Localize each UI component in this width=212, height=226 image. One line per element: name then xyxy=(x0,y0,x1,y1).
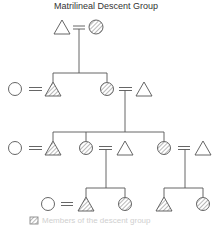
gen2-right-couple xyxy=(101,82,153,132)
male-triangle-icon xyxy=(136,82,152,96)
gen1-couple xyxy=(54,20,103,73)
male-member-triangle-icon xyxy=(45,141,61,155)
female-member-circle-icon xyxy=(119,198,132,211)
gen4-right-group xyxy=(156,197,210,211)
female-member-circle-icon xyxy=(158,142,171,155)
female-member-circle-icon xyxy=(101,83,114,96)
female-circle-icon xyxy=(9,83,22,96)
female-circle-icon xyxy=(9,142,22,155)
female-member-circle-icon xyxy=(80,142,93,155)
male-member-triangle-icon xyxy=(156,197,172,211)
male-triangle-icon xyxy=(117,141,133,155)
female-member-circle-icon xyxy=(89,20,103,34)
legend-hatch-swatch-icon xyxy=(30,217,38,224)
gen3-left-couple xyxy=(9,141,62,155)
male-triangle-icon xyxy=(54,20,70,34)
male-member-triangle-icon xyxy=(78,197,94,211)
male-triangle-icon xyxy=(195,141,211,155)
gen4-left-group xyxy=(42,197,132,211)
kinship-diagram xyxy=(0,0,212,226)
gen2-left-couple xyxy=(9,82,62,96)
gen3-middle-couple xyxy=(80,141,134,188)
female-circle-icon xyxy=(42,198,55,211)
female-member-circle-icon xyxy=(197,198,210,211)
gen3-right-couple xyxy=(158,141,212,188)
male-member-triangle-icon xyxy=(45,82,61,96)
legend-label: Members of the descent group xyxy=(42,216,151,225)
